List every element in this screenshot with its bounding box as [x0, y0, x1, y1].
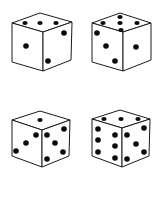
pip-icon — [95, 149, 101, 155]
pip-icon — [112, 58, 118, 64]
pip-icon — [103, 43, 109, 49]
pip-icon — [141, 125, 147, 131]
pip-icon — [44, 156, 50, 162]
pip-icon — [117, 21, 122, 25]
pip-icon — [60, 149, 66, 155]
pip-icon — [134, 21, 139, 25]
pip-icon — [118, 28, 123, 32]
pip-icon — [53, 21, 58, 25]
pip-icon — [124, 132, 130, 138]
pip-icon — [52, 140, 58, 146]
pip-icon — [23, 140, 29, 146]
pip-icon — [94, 30, 100, 36]
dice-canvas — [0, 0, 160, 198]
die-3 — [12, 111, 70, 167]
pip-icon — [37, 118, 42, 122]
pip-icon — [33, 132, 39, 138]
pip-icon — [133, 141, 139, 147]
pip-icon — [101, 117, 106, 121]
pip-icon — [141, 149, 147, 155]
die-2 — [92, 13, 151, 71]
pip-icon — [22, 21, 27, 25]
pip-icon — [124, 156, 130, 162]
pip-icon — [118, 117, 123, 121]
die-4 — [92, 110, 150, 167]
pip-icon — [133, 44, 139, 50]
pip-icon — [112, 155, 118, 161]
pip-icon — [45, 58, 51, 64]
pip-icon — [135, 117, 140, 121]
pip-icon — [37, 21, 42, 25]
pip-icon — [95, 126, 101, 132]
pip-icon — [23, 43, 29, 49]
pip-icon — [100, 21, 105, 25]
pip-icon — [61, 126, 67, 132]
pip-icon — [61, 30, 67, 36]
die-1 — [12, 13, 72, 71]
pip-icon — [112, 132, 118, 138]
pip-icon — [112, 143, 118, 149]
pip-icon — [44, 132, 50, 138]
die-left-face — [92, 119, 122, 167]
pip-icon — [95, 137, 101, 143]
pip-icon — [117, 15, 122, 19]
pip-icon — [13, 148, 19, 154]
